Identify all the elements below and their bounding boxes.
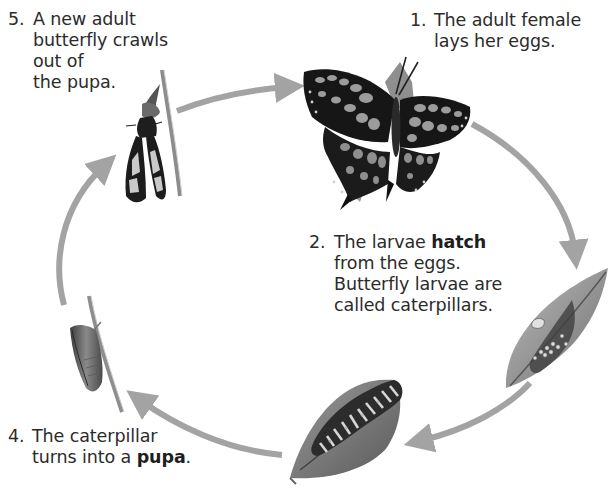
step-2-caption: 2. The larvae hatch from the eggs. Butte… [309,232,502,316]
step-4-line-2-text: turns into a [32,447,137,467]
step-1-line-1: The adult female [410,10,581,31]
step-5-line-1: A new adult [8,9,168,30]
arrow-4-to-5 [59,166,104,305]
step-2-number: 2. [309,232,326,253]
adult-butterfly-icon [303,57,470,210]
arrow-2-to-3 [420,383,530,441]
butterfly-life-cycle-diagram: 5. A new adult butterfly crawls out of t… [0,0,611,489]
step-2-line-3: Butterfly larvae are [309,274,502,295]
step-4-line-2: turns into a pupa. [8,447,191,468]
step-4-number: 4. [8,426,25,447]
step-5-number: 5. [8,9,25,30]
arrow-5-to-1 [177,87,288,111]
eggs-on-leaf-icon [506,268,608,388]
step-2-line-4: called caterpillars. [309,295,502,316]
caterpillar-on-leaf-icon [290,380,402,484]
keyword-pupa: pupa [137,447,186,467]
pupa-on-stem-icon [70,296,124,412]
step-5-line-4: the pupa. [8,72,168,93]
step-2-line-2: from the eggs. [309,253,502,274]
step-5-line-3: out of [8,51,168,72]
step-1-number: 1. [410,10,427,31]
step-5-caption: 5. A new adult butterfly crawls out of t… [8,9,168,93]
step-2-line-1-text: The larvae [334,232,431,252]
step-2-line-1: The larvae hatch [309,232,502,253]
step-4-caption: 4. The caterpillar turns into a pupa. [8,426,191,468]
step-4-line-1: The caterpillar [8,426,191,447]
keyword-hatch: hatch [431,232,486,252]
step-5-line-2: butterfly crawls [8,30,168,51]
step-1-line-2: lays her eggs. [410,31,581,52]
step-4-line-2-end: . [186,447,191,467]
step-1-caption: 1. The adult female lays her eggs. [410,10,581,52]
